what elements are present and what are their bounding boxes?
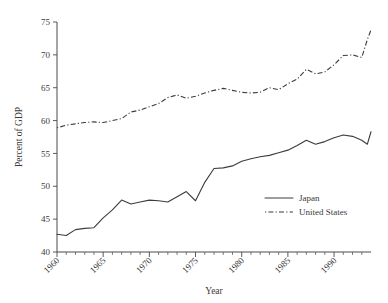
line-chart: 4045505560657075 19601965197019751980198… xyxy=(0,0,388,303)
x-axis-tick-labels: 1960196519701975198019851990 xyxy=(42,255,339,275)
chart-series xyxy=(57,30,371,236)
y-tick-label: 70 xyxy=(41,50,51,60)
x-tick-label: 1975 xyxy=(180,255,200,275)
chart-figure: 4045505560657075 19601965197019751980198… xyxy=(0,0,388,303)
x-tick-label: 1985 xyxy=(272,255,292,275)
chart-legend: JapanUnited States xyxy=(265,193,348,217)
legend-label-united-states: United States xyxy=(299,207,348,217)
y-tick-label: 65 xyxy=(41,83,51,93)
y-tick-label: 50 xyxy=(41,181,51,191)
x-tick-label: 1965 xyxy=(88,255,108,275)
y-tick-label: 75 xyxy=(41,17,51,27)
y-axis-tick-labels: 4045505560657075 xyxy=(41,17,51,257)
x-axis-title: Year xyxy=(205,286,223,296)
y-tick-label: 45 xyxy=(41,214,51,224)
x-tick-label: 1980 xyxy=(226,255,246,275)
y-tick-label: 40 xyxy=(41,247,51,257)
x-tick-label: 1990 xyxy=(319,255,339,275)
y-tick-label: 55 xyxy=(41,149,51,159)
x-tick-label: 1970 xyxy=(134,255,154,275)
y-axis-ticks xyxy=(53,22,57,252)
y-axis-title: Percent of GDP xyxy=(14,107,24,167)
x-tick-label: 1960 xyxy=(42,255,62,275)
series-line-japan xyxy=(57,132,371,236)
series-line-united-states xyxy=(57,30,371,128)
legend-label-japan: Japan xyxy=(299,193,320,203)
y-tick-label: 60 xyxy=(41,116,51,126)
